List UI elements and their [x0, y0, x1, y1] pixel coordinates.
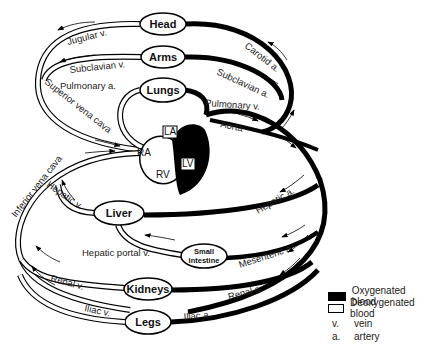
- legend-deoxygenated: Deoxygenated blood: [328, 302, 431, 314]
- legend: Oxygenated blood Deoxygenated blood v. v…: [328, 290, 431, 343]
- svg-text:Arms: Arms: [149, 51, 177, 63]
- legend-abbr-vein: v. vein: [328, 318, 431, 330]
- label-hepatic-v: Hepatic v.: [45, 179, 85, 212]
- organ-liver: Liver: [94, 201, 144, 225]
- label-ra: RA: [137, 147, 151, 158]
- label-pulmonary-v: Pulmonary v.: [205, 97, 260, 112]
- organ-small-intestine: Small Intestine: [181, 244, 227, 268]
- svg-text:Liver: Liver: [106, 207, 133, 219]
- label-lv: LV: [182, 158, 194, 169]
- label-aorta: Aorta: [220, 118, 245, 134]
- arrow-icon: [282, 225, 305, 237]
- svg-text:Legs: Legs: [135, 316, 161, 328]
- legend-abbr-artery: a. artery: [328, 331, 431, 343]
- swatch-oxygenated: [328, 292, 346, 301]
- label-rv: RV: [156, 169, 170, 180]
- svg-text:Kidneys: Kidneys: [127, 283, 170, 295]
- heart: LA LV RA RV: [133, 124, 210, 195]
- label-subclavian-a: Subclavian a.: [215, 66, 271, 100]
- organ-lungs: Lungs: [140, 78, 186, 102]
- label-hepatic-portal-v: Hepatic portal v.: [82, 247, 150, 258]
- organ-head: Head: [140, 13, 186, 35]
- arrow-icon: [85, 151, 115, 153]
- organ-legs: Legs: [125, 310, 171, 334]
- svg-text:Small: Small: [194, 247, 214, 256]
- organ-arms: Arms: [141, 46, 185, 68]
- organ-kidneys: Kidneys: [124, 278, 172, 300]
- svg-text:Lungs: Lungs: [147, 84, 180, 96]
- swatch-deoxygenated: [328, 304, 344, 313]
- svg-text:Head: Head: [150, 18, 177, 30]
- svg-text:Intestine: Intestine: [189, 256, 220, 265]
- label-pulmonary-a: Pulmonary a.: [60, 80, 116, 91]
- label-mesenteric-a: Mesenteric a.: [237, 242, 295, 270]
- label-la: LA: [164, 126, 177, 137]
- arrow-icon: [36, 246, 60, 262]
- arrow-icon: [145, 235, 175, 240]
